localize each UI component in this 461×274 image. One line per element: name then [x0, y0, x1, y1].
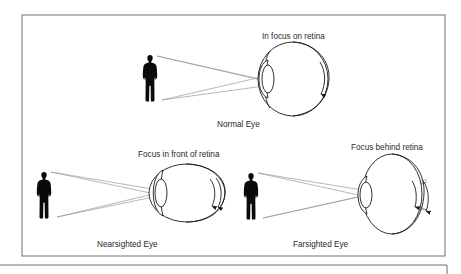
lens-icon — [360, 182, 372, 208]
eye-focus-diagram: In focus on retina Normal Eye Focus in f… — [0, 0, 461, 274]
focus-label-normal: In focus on retina — [262, 32, 325, 41]
focus-label-farsighted: Focus behind retina — [351, 143, 423, 152]
nearsighted-eye-panel: Focus in front of retina Nearsighted Eye — [37, 150, 225, 249]
lens-icon — [155, 179, 167, 207]
person-figure-icon — [37, 172, 51, 218]
lens-icon — [262, 65, 274, 93]
farsighted-eye-panel: Focus behind retina Farsighted Eye — [244, 143, 428, 249]
caption-farsighted-eye: Farsighted Eye — [293, 240, 349, 249]
person-figure-icon — [143, 55, 157, 101]
caption-normal-eye: Normal Eye — [217, 120, 260, 129]
person-figure-icon — [244, 173, 258, 219]
caption-nearsighted-eye: Nearsighted Eye — [97, 240, 158, 249]
focus-label-nearsighted: Focus in front of retina — [138, 150, 220, 159]
normal-eye-panel: In focus on retina Normal Eye — [143, 32, 329, 129]
